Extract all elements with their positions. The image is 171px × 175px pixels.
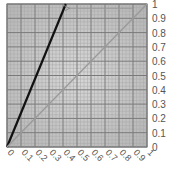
- y-tick-label: 0.5: [152, 71, 166, 82]
- y-tick-label: 0.2: [152, 113, 166, 124]
- y-tick-label: 0.8: [152, 28, 166, 39]
- y-tick-label: 1: [152, 0, 158, 10]
- y-tick-label: 0.4: [152, 85, 166, 96]
- x-tick-label: 0.8: [118, 147, 134, 163]
- x-tick-label: 0.9: [132, 147, 148, 163]
- x-tick-label: 0.1: [20, 147, 36, 163]
- chart: 00.10.20.30.40.50.60.70.80.91 00.10.20.3…: [0, 0, 171, 175]
- y-tick-label: 0.1: [152, 128, 166, 139]
- y-tick-label: 0.7: [152, 42, 166, 53]
- x-tick-label: 0.2: [34, 147, 50, 163]
- y-tick-label: 0.9: [152, 13, 166, 24]
- x-tick-label: 0.3: [48, 147, 64, 163]
- y-tick-label: 0.6: [152, 56, 166, 67]
- x-tick-label: 0: [6, 147, 17, 158]
- x-tick-label: 0.5: [76, 147, 92, 163]
- x-axis-ticks: 00.10.20.30.40.50.60.70.80.91: [6, 147, 157, 163]
- y-tick-label: 0.3: [152, 99, 166, 110]
- y-axis-ticks: 00.10.20.30.40.50.60.70.80.91: [152, 0, 166, 153]
- x-tick-label: 0.6: [90, 147, 106, 163]
- x-tick-label: 0.7: [104, 147, 120, 163]
- x-tick-label: 0.4: [62, 147, 78, 163]
